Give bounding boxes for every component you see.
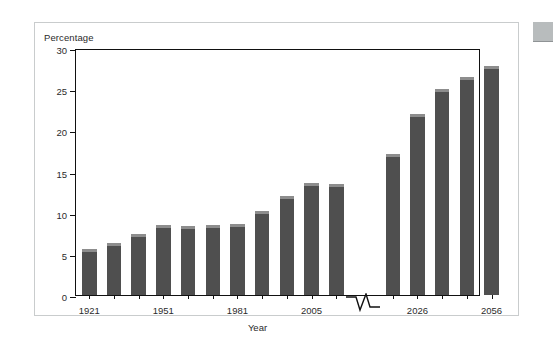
- x-tick-o10: [336, 295, 337, 299]
- bar-top-face: [156, 225, 171, 228]
- bar-top-face: [206, 225, 221, 228]
- bar-observed-0: [82, 252, 97, 295]
- bar-top-face: [386, 154, 401, 157]
- bar-top-face: [484, 66, 499, 69]
- bar-observed-6: [230, 227, 245, 295]
- bar-top-face: [329, 184, 344, 187]
- bar-top-face: [82, 249, 97, 252]
- x-tick-label-1921: 1921: [79, 305, 100, 316]
- chart-card: Percentage 051015202530 1921195119812005…: [34, 22, 519, 316]
- y-tick-20: [70, 132, 76, 133]
- bar-observed-1: [107, 246, 122, 295]
- y-tick-label-15: 15: [56, 168, 67, 179]
- bar-observed-2: [131, 237, 146, 295]
- x-tick-o9: [312, 295, 313, 299]
- bar-observed-9: [304, 186, 319, 295]
- x-tick-p4: [492, 295, 493, 299]
- x-tick-o0: [89, 295, 90, 299]
- x-tick-p0: [393, 295, 394, 299]
- x-tick-o1: [114, 295, 115, 299]
- y-tick-label-20: 20: [56, 127, 67, 138]
- x-tick-label-2005: 2005: [301, 305, 322, 316]
- bar-projected-0: [386, 157, 401, 295]
- corner-accent-block: [533, 22, 553, 42]
- x-tick-label-2026: 2026: [407, 305, 428, 316]
- x-tick-o4: [188, 295, 189, 299]
- bar-observed-4: [181, 229, 196, 295]
- bar-top-face: [304, 183, 319, 186]
- bar-observed-8: [280, 199, 295, 295]
- chart-figure: Percentage 051015202530 1921195119812005…: [35, 23, 520, 317]
- x-axis-title: Year: [248, 322, 267, 333]
- bar-observed-7: [255, 214, 270, 296]
- y-tick-10: [70, 215, 76, 216]
- y-tick-label-5: 5: [62, 250, 67, 261]
- bar-projected-4: [484, 69, 499, 295]
- y-tick-30: [70, 50, 76, 51]
- x-tick-o7: [262, 295, 263, 299]
- y-tick-label-0: 0: [62, 292, 67, 303]
- y-tick-15: [70, 174, 76, 175]
- bar-projected-1: [410, 117, 425, 295]
- bar-top-face: [181, 226, 196, 229]
- x-tick-o2: [139, 295, 140, 299]
- bar-top-face: [280, 196, 295, 199]
- bar-top-face: [255, 211, 270, 214]
- bar-observed-10: [329, 187, 344, 295]
- bar-projected-3: [460, 80, 475, 295]
- y-tick-5: [70, 256, 76, 257]
- bar-top-face: [460, 77, 475, 80]
- x-tick-p3: [467, 295, 468, 299]
- bar-observed-5: [206, 228, 221, 296]
- x-tick-label-2056: 2056: [481, 305, 502, 316]
- x-tick-o5: [213, 295, 214, 299]
- plot-area: 051015202530 192119511981200520262056: [75, 49, 480, 296]
- x-tick-label-1951: 1951: [153, 305, 174, 316]
- bar-top-face: [230, 224, 245, 227]
- x-tick-label-1981: 1981: [227, 305, 248, 316]
- y-tick-0: [70, 297, 76, 298]
- bar-top-face: [107, 243, 122, 246]
- x-tick-o8: [287, 295, 288, 299]
- y-axis-title: Percentage: [44, 32, 94, 43]
- y-tick-label-25: 25: [56, 86, 67, 97]
- bar-observed-3: [156, 228, 171, 295]
- y-tick-label-10: 10: [56, 209, 67, 220]
- x-tick-p1: [417, 295, 418, 299]
- bar-projected-2: [435, 92, 450, 295]
- x-tick-o3: [163, 295, 164, 299]
- bar-top-face: [410, 114, 425, 117]
- bar-top-face: [435, 89, 450, 92]
- x-tick-o6: [237, 295, 238, 299]
- bar-top-face: [131, 234, 146, 237]
- y-tick-label-30: 30: [56, 45, 67, 56]
- y-tick-25: [70, 91, 76, 92]
- x-tick-p2: [442, 295, 443, 299]
- axis-break-zigzag-icon: [346, 293, 380, 313]
